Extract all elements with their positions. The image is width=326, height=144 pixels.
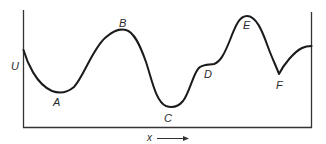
point-label-f: F	[276, 80, 283, 91]
point-label-d: D	[204, 69, 212, 80]
point-label-c: C	[164, 113, 172, 124]
point-label-b: B	[119, 18, 126, 29]
point-label-a: A	[53, 97, 60, 108]
y-axis-label: U	[11, 61, 19, 72]
potential-energy-diagram: U A B C D E F x	[0, 0, 326, 144]
point-label-e: E	[243, 20, 250, 31]
right-arrow-icon	[157, 136, 189, 141]
diagram-canvas	[0, 0, 326, 144]
potential-curve	[24, 16, 312, 107]
x-axis-label: x	[147, 133, 152, 143]
